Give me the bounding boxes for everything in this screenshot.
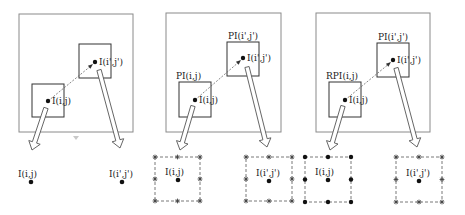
hollow-arrow-4 [245, 67, 271, 148]
patch-matching-diagram: I(i,j)I(i',j')I(i,j)I(i',j')PI(i,j)PI(i'… [0, 0, 465, 215]
grid-center-label-left-3: I(i,j) [315, 167, 334, 177]
asterisk-icon [417, 200, 422, 205]
image-frame-1 [19, 14, 133, 132]
asterisk-icon [244, 199, 249, 204]
asterisk-icon [394, 200, 399, 205]
hollow-arrow-2 [97, 69, 124, 148]
neighbor-dot-marker [303, 177, 307, 181]
grid-center-label-right-3: I(i',j') [406, 168, 430, 178]
scan-artifact-triangle-icon [73, 136, 79, 140]
pixel-label-target-1: I(i',j') [99, 57, 123, 67]
asterisk-icon [198, 155, 203, 160]
asterisk-icon [417, 155, 422, 160]
asterisk-icon [153, 177, 158, 182]
neighbor-dot-marker [303, 200, 307, 204]
asterisk-icon [440, 200, 445, 205]
asterisk-icon [244, 155, 249, 160]
pixel-dot-source-1 [46, 99, 50, 103]
pixel-dot-target-3 [391, 58, 395, 62]
asterisk-icon [394, 155, 399, 160]
result-label-left-1: I(i,j) [18, 169, 37, 179]
patch-title-target-3: PI(i',j') [378, 32, 408, 42]
center-pixel-dot-left-2 [176, 178, 181, 183]
patch-title-target-2: PI(i',j') [228, 31, 258, 41]
result-dot-right-1 [120, 180, 125, 185]
result-dot-left-1 [29, 180, 34, 185]
asterisk-icon [290, 155, 295, 160]
pixel-dot-target-2 [241, 56, 245, 60]
grid-center-label-left-2: I(i,j) [165, 167, 184, 177]
neighbor-dot-marker [349, 177, 353, 181]
asterisk-icon [244, 177, 249, 182]
neighbor-dot-marker [326, 155, 330, 159]
patch-title-source-2: PI(i,j) [176, 71, 201, 81]
arrowhead-icon-2 [236, 60, 241, 65]
center-pixel-dot-right-3 [417, 179, 422, 184]
diagram-canvas: I(i,j)I(i',j')I(i,j)I(i',j')PI(i,j)PI(i'… [0, 0, 465, 215]
asterisk-icon [267, 199, 272, 204]
hollow-arrow-6 [394, 67, 421, 147]
pixel-label-source-3: I(i,j) [349, 95, 368, 105]
pixel-label-target-3: I(i',j') [397, 55, 421, 65]
asterisk-icon [175, 199, 180, 204]
asterisk-icon [267, 155, 272, 160]
pixel-dot-source-3 [343, 98, 347, 102]
asterisk-icon [153, 155, 158, 160]
pixel-label-target-2: I(i',j') [247, 53, 271, 63]
center-pixel-dot-right-2 [267, 179, 272, 184]
pixel-dot-target-1 [93, 60, 97, 64]
center-pixel-dot-left-3 [326, 178, 331, 183]
arrowhead-icon-1 [88, 64, 93, 69]
pixel-label-source-2: I(i,j) [199, 95, 218, 105]
asterisk-icon [175, 155, 180, 160]
asterisk-icon [440, 155, 445, 160]
asterisk-icon [440, 177, 445, 182]
neighbor-dot-marker [349, 155, 353, 159]
asterisk-icon [290, 177, 295, 182]
asterisk-icon [198, 177, 203, 182]
patch-title-source-3: RPI(i,j) [326, 71, 358, 81]
grid-center-label-right-2: I(i',j') [256, 168, 280, 178]
neighbor-dot-marker [349, 200, 353, 204]
neighbor-dot-marker [303, 155, 307, 159]
asterisk-icon [153, 199, 158, 204]
neighbor-dot-marker [326, 200, 330, 204]
result-label-right-1: I(i',j') [109, 169, 133, 179]
asterisk-icon [198, 199, 203, 204]
asterisk-icon [290, 199, 295, 204]
pixel-dot-source-2 [193, 98, 197, 102]
pixel-label-source-1: I(i,j) [52, 96, 71, 106]
asterisk-icon [394, 177, 399, 182]
